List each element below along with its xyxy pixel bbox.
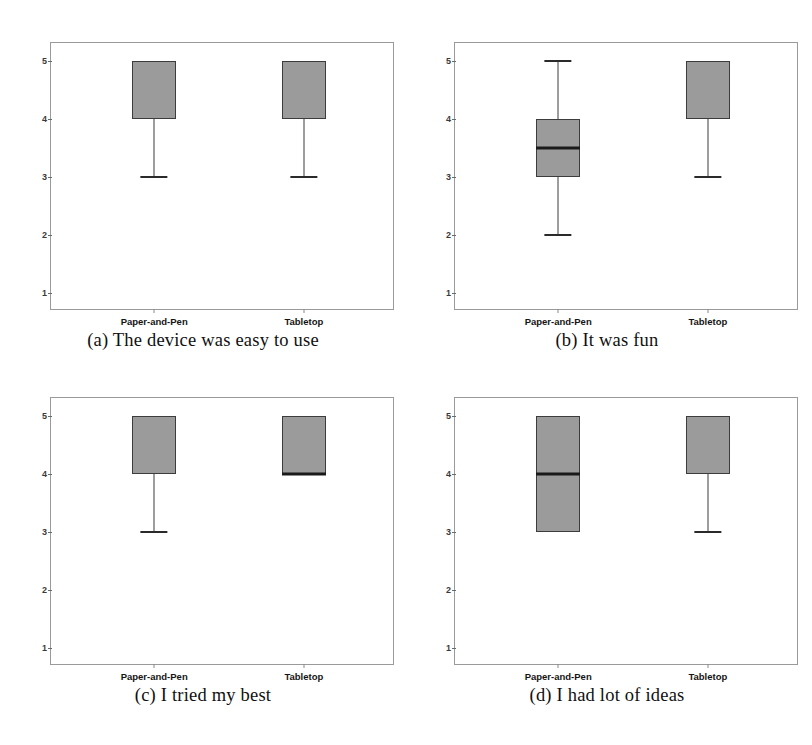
x-axis-tick-mark	[707, 309, 708, 313]
whisker-lower	[707, 119, 708, 177]
panel-c: 54321Paper-and-PenTabletop(c) I tried my…	[8, 385, 398, 740]
x-axis-label-paper-and-pen: Paper-and-Pen	[121, 671, 188, 682]
panel-d: 54321Paper-and-PenTabletop(d) I had lot …	[412, 385, 802, 740]
y-axis-tick-label: 4	[446, 469, 455, 479]
y-axis-tick-label: 3	[42, 527, 51, 537]
y-axis-tick-label: 3	[446, 172, 455, 182]
whisker-cap-lower	[141, 176, 168, 178]
plot-area-a: 54321Paper-and-PenTabletop	[50, 42, 394, 310]
median-line	[536, 473, 580, 476]
x-axis-label-tabletop: Tabletop	[688, 316, 727, 327]
panel-a: 54321Paper-and-PenTabletop(a) The device…	[8, 30, 398, 385]
box-tabletop	[686, 416, 730, 474]
median-line	[282, 473, 326, 476]
whisker-lower	[154, 474, 155, 532]
plot-area-d: 54321Paper-and-PenTabletop	[454, 397, 798, 665]
y-axis-tick-label: 1	[446, 288, 455, 298]
x-axis-tick-mark	[558, 664, 559, 668]
y-axis-tick-label: 2	[42, 585, 51, 595]
y-axis-tick-label: 2	[446, 230, 455, 240]
whisker-lower	[707, 474, 708, 532]
whisker-cap-lower	[694, 531, 721, 533]
y-axis-tick-label: 5	[42, 56, 51, 66]
boxplot-figure: 54321Paper-and-PenTabletop(a) The device…	[0, 0, 812, 745]
box-tabletop	[282, 416, 326, 474]
x-axis-tick-mark	[707, 664, 708, 668]
whisker-cap-lower	[694, 176, 721, 178]
y-axis-tick-label: 3	[42, 172, 51, 182]
x-axis-tick-mark	[558, 309, 559, 313]
whisker-cap-lower	[290, 176, 317, 178]
x-axis-label-tabletop: Tabletop	[284, 316, 323, 327]
panel-caption-b: (b) It was fun	[412, 330, 802, 351]
y-axis-tick-label: 4	[42, 469, 51, 479]
y-axis-tick-label: 4	[42, 114, 51, 124]
x-axis-label-paper-and-pen: Paper-and-Pen	[525, 671, 592, 682]
box-tabletop	[686, 61, 730, 119]
y-axis-tick-label: 1	[42, 643, 51, 653]
box-paper-and-pen	[132, 61, 176, 119]
y-axis-tick-label: 4	[446, 114, 455, 124]
x-axis-tick-mark	[154, 664, 155, 668]
y-axis-tick-label: 3	[446, 527, 455, 537]
y-axis-tick-label: 2	[42, 230, 51, 240]
y-axis-tick-label: 5	[42, 411, 51, 421]
x-axis-label-tabletop: Tabletop	[284, 671, 323, 682]
panel-b: 54321Paper-and-PenTabletop(b) It was fun	[412, 30, 802, 385]
whisker-upper	[558, 61, 559, 119]
median-line	[536, 147, 580, 150]
whisker-cap-lower	[141, 531, 168, 533]
panel-caption-c: (c) I tried my best	[8, 685, 398, 706]
x-axis-tick-mark	[303, 664, 304, 668]
plot-area-b: 54321Paper-and-PenTabletop	[454, 42, 798, 310]
panel-caption-d: (d) I had lot of ideas	[412, 685, 802, 706]
whisker-cap-upper	[545, 60, 572, 62]
panel-caption-a: (a) The device was easy to use	[8, 330, 398, 351]
whisker-lower	[303, 119, 304, 177]
x-axis-label-paper-and-pen: Paper-and-Pen	[121, 316, 188, 327]
y-axis-tick-label: 2	[446, 585, 455, 595]
y-axis-tick-label: 1	[446, 643, 455, 653]
x-axis-label-tabletop: Tabletop	[688, 671, 727, 682]
whisker-cap-lower	[545, 234, 572, 236]
whisker-lower	[558, 177, 559, 235]
x-axis-label-paper-and-pen: Paper-and-Pen	[525, 316, 592, 327]
y-axis-tick-label: 5	[446, 411, 455, 421]
box-paper-and-pen	[132, 416, 176, 474]
x-axis-tick-mark	[303, 309, 304, 313]
whisker-lower	[154, 119, 155, 177]
x-axis-tick-mark	[154, 309, 155, 313]
y-axis-tick-label: 5	[446, 56, 455, 66]
box-tabletop	[282, 61, 326, 119]
y-axis-tick-label: 1	[42, 288, 51, 298]
plot-area-c: 54321Paper-and-PenTabletop	[50, 397, 394, 665]
